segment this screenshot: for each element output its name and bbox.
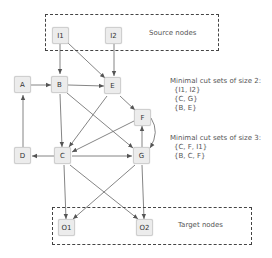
- cut-sets-size-3-title: Minimal cut sets of size 3:: [170, 134, 261, 143]
- node-f[interactable]: F: [134, 109, 151, 126]
- edge-b-e: [68, 85, 104, 86]
- node-d[interactable]: D: [14, 147, 31, 164]
- cut-sets-size-2-title: Minimal cut sets of size 2:: [170, 77, 261, 86]
- cut-set-item: {C, G}: [170, 95, 261, 104]
- edge-e-f: [120, 96, 135, 110]
- node-i2[interactable]: I2: [105, 27, 122, 44]
- node-c[interactable]: C: [54, 147, 71, 164]
- cut-set-item: {C, F, I1}: [170, 143, 261, 152]
- diagram-canvas: Source nodes Target nodes I1 I2 A B E F …: [0, 0, 272, 258]
- edge-f-c: [72, 121, 134, 152]
- edge-b-c: [60, 94, 62, 147]
- cut-sets-size-2: Minimal cut sets of size 2: {I1, I2} {C,…: [170, 77, 261, 113]
- source-group-label: Source nodes: [149, 29, 196, 37]
- cut-set-item: {B, C, F}: [170, 152, 261, 161]
- cut-set-item: {B, E}: [170, 104, 261, 113]
- target-group-label: Target nodes: [178, 221, 223, 229]
- cut-set-item: {I1, I2}: [170, 86, 261, 95]
- node-o2[interactable]: O2: [136, 219, 153, 236]
- edge-b-g: [67, 93, 133, 148]
- node-i1[interactable]: I1: [52, 27, 69, 44]
- node-g[interactable]: G: [133, 147, 150, 164]
- node-e[interactable]: E: [104, 77, 121, 94]
- node-o1[interactable]: O1: [58, 219, 75, 236]
- node-b[interactable]: B: [51, 76, 68, 93]
- cut-sets-size-3: Minimal cut sets of size 3: {C, F, I1} {…: [170, 134, 261, 161]
- node-a[interactable]: A: [14, 76, 31, 93]
